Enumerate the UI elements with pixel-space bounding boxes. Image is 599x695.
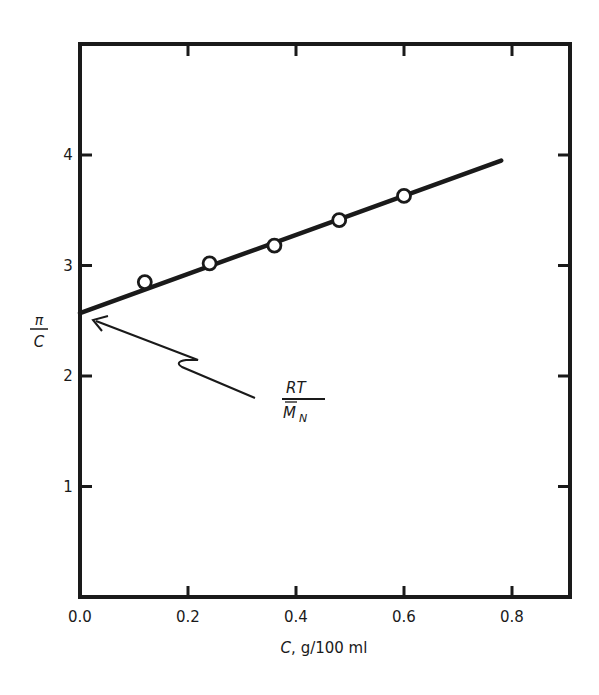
y-axis-title-denominator: C bbox=[34, 333, 45, 351]
annotation-numerator: RT bbox=[286, 379, 307, 397]
x-axis-title: C, g/100 ml bbox=[281, 639, 368, 657]
data-point-marker bbox=[398, 189, 411, 202]
y-tick-label: 1 bbox=[63, 478, 73, 496]
osmotic-pressure-plot: 0.00.20.40.60.81234 RT M N π C C, g/100 … bbox=[0, 0, 599, 695]
y-tick-label: 2 bbox=[63, 367, 73, 385]
axis-ticks bbox=[80, 44, 570, 597]
intercept-annotation: RT M N bbox=[93, 316, 325, 425]
data-point-marker bbox=[203, 257, 216, 270]
x-tick-label: 0.4 bbox=[284, 608, 308, 626]
x-axis-title-units: , g/100 ml bbox=[291, 639, 367, 657]
x-tick-label: 0.2 bbox=[176, 608, 200, 626]
plot-frame bbox=[80, 44, 570, 597]
data-point-marker bbox=[333, 214, 346, 227]
data-point-marker bbox=[268, 239, 281, 252]
annotation-denominator-sub: N bbox=[299, 412, 307, 425]
x-tick-label: 0.8 bbox=[500, 608, 524, 626]
data-point-marker bbox=[138, 276, 151, 289]
y-tick-label: 4 bbox=[63, 146, 73, 164]
annotation-denominator: M bbox=[283, 404, 296, 422]
x-tick-label: 0.0 bbox=[68, 608, 92, 626]
x-tick-label: 0.6 bbox=[392, 608, 416, 626]
y-axis-title: π C bbox=[30, 312, 48, 351]
y-axis-title-numerator: π bbox=[35, 312, 44, 328]
linear-fit-line bbox=[80, 161, 501, 313]
x-axis-title-var: C bbox=[281, 639, 292, 657]
y-tick-label: 3 bbox=[63, 257, 73, 275]
data-points bbox=[138, 189, 410, 288]
squiggle-arrow bbox=[96, 321, 255, 398]
